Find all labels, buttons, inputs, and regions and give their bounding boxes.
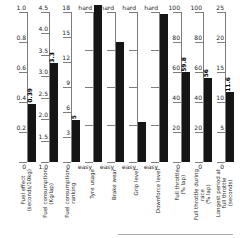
tick-mark — [195, 42, 203, 43]
tick-label: hard — [100, 5, 114, 11]
bar-brake-wear — [116, 42, 124, 162]
tick-mark — [217, 102, 225, 103]
tick-label: 0.8 — [16, 35, 26, 41]
tick-mark — [217, 12, 225, 13]
tick-mark — [195, 102, 203, 103]
axis-title-fuel-consumption-ranking: Fuel consumptionranking — [64, 169, 76, 218]
circuit-characteristics-chart: 1.00.80.60.40.200.39Fuel effect(seconds/… — [0, 0, 240, 238]
tick-mark — [41, 12, 49, 13]
tick-label: 2.5 — [38, 91, 48, 97]
tick-mark — [217, 72, 225, 73]
bar-fuel-consumption-ranking — [72, 120, 80, 162]
bar-downforce-level — [160, 14, 168, 163]
tick-mark — [173, 42, 181, 43]
tick-mark — [63, 62, 71, 63]
axis-title-full-throttle-during-race: Full throttle duringrace(% lap) — [193, 169, 211, 220]
tick-mark — [151, 87, 159, 88]
bar-value-label: 59.8 — [180, 57, 187, 72]
tick-mark — [107, 12, 115, 13]
tick-label: 25 — [216, 5, 224, 11]
tick-mark — [129, 50, 137, 51]
bar-fuel-consumption — [50, 63, 58, 162]
bar-grip-level — [138, 122, 146, 163]
axis-title-line: (% lap) — [205, 169, 211, 220]
tick-mark — [151, 12, 159, 13]
multi-axis-bar-chart: 1.00.80.60.40.200.39Fuel effect(seconds/… — [0, 0, 240, 238]
footer-divider-line — [118, 234, 233, 235]
axis-title-brake-wear: Brake wear — [111, 169, 117, 200]
tick-label: 60 — [194, 65, 202, 71]
tick-mark — [41, 98, 49, 99]
tick-mark — [151, 125, 159, 126]
bar-value-label: 0.39 — [26, 88, 33, 103]
bar-value-label: 56 — [202, 69, 209, 77]
axis-title-line: (seconds/10kg) — [26, 169, 32, 211]
tick-label: 40 — [194, 95, 202, 101]
tick-label: 20 — [194, 125, 202, 131]
tick-label: 20 — [172, 125, 180, 131]
tick-mark — [173, 102, 181, 103]
tick-label: 9 — [66, 80, 70, 86]
axis-title-line: Downforce level — [155, 169, 161, 213]
bar-value-label: 5 — [70, 115, 77, 119]
tick-label: 40 — [172, 95, 180, 101]
tick-mark — [129, 87, 137, 88]
tick-label: 60 — [172, 65, 180, 71]
tick-label: 80 — [194, 35, 202, 41]
axis-title-longest-period-full-throttle: Longest period atfull throttle(seconds) — [215, 169, 233, 217]
tick-label: 12 — [62, 55, 70, 61]
bar-fuel-effect — [28, 104, 36, 163]
tick-label: hard — [144, 5, 158, 11]
axis-title-line: Grip level — [133, 169, 139, 195]
axis-title-line: (Kg/lap) — [48, 169, 54, 218]
tick-mark — [41, 119, 49, 120]
tick-label: 3.5 — [38, 48, 48, 54]
tick-mark — [85, 12, 93, 13]
bar-value-label: 11.6 — [224, 77, 231, 92]
tick-label: 100 — [169, 5, 180, 11]
tick-mark — [41, 76, 49, 77]
tick-label: 1.5 — [38, 134, 48, 140]
tick-label: hard — [78, 5, 92, 11]
axis-title-fuel-consumption: Fuel consumption(Kg/lap) — [42, 169, 54, 218]
axis-title-full-throttle: Full throttle(% lap) — [174, 169, 186, 201]
tick-mark — [85, 50, 93, 51]
tick-mark — [195, 132, 203, 133]
tick-mark — [195, 12, 203, 13]
tick-label: 20 — [216, 35, 224, 41]
tick-mark — [85, 125, 93, 126]
tick-mark — [107, 87, 115, 88]
tick-label: 2.0 — [38, 112, 48, 118]
tick-mark — [19, 72, 27, 73]
tick-label: 0.2 — [16, 125, 26, 131]
tick-label: 0.6 — [16, 65, 26, 71]
tick-mark — [63, 112, 71, 113]
tick-mark — [217, 42, 225, 43]
tick-label: 6 — [66, 105, 70, 111]
tick-mark — [85, 87, 93, 88]
tick-mark — [129, 12, 137, 13]
tick-label: 0.4 — [16, 95, 26, 101]
tick-mark — [129, 125, 137, 126]
axis-title-line: (seconds) — [227, 169, 233, 217]
tick-label: hard — [122, 5, 136, 11]
bar-full-throttle — [182, 72, 190, 162]
tick-mark — [41, 33, 49, 34]
tick-mark — [173, 72, 181, 73]
axis-title-line: ranking — [70, 169, 76, 218]
axis-title-line: Tyre usage — [89, 169, 95, 199]
tick-mark — [173, 12, 181, 13]
axis-title-line: (% lap) — [180, 169, 186, 201]
tick-mark — [107, 125, 115, 126]
tick-mark — [151, 50, 159, 51]
tick-mark — [63, 137, 71, 138]
bar-value-label: 3.3 — [48, 52, 55, 63]
tick-mark — [173, 132, 181, 133]
bar-full-throttle-during-race — [204, 78, 212, 162]
tick-label: 1.0 — [16, 5, 26, 11]
axis-title-line: Brake wear — [111, 169, 117, 200]
tick-mark — [19, 42, 27, 43]
tick-label: 100 — [191, 5, 202, 11]
axis-title-tyre-usage: Tyre usage — [89, 169, 95, 199]
axis-title-grip-level: Grip level — [133, 169, 139, 195]
